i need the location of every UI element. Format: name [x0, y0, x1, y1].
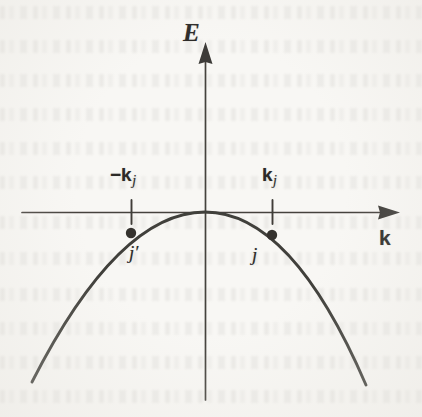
tick-label-negative-kj-main: −k	[110, 164, 132, 185]
point-label-j-prime: j′	[129, 243, 138, 262]
y-axis-label: E	[183, 20, 200, 45]
y-axis-arrowhead	[199, 42, 213, 64]
point-j	[267, 230, 277, 240]
tick-label-negative-kj: −kj	[110, 165, 136, 188]
x-axis-label: k	[379, 227, 391, 248]
point-label-j: j	[252, 245, 257, 264]
parabola-curve	[32, 212, 366, 385]
x-axis-arrowhead	[378, 206, 400, 220]
figure-canvas: E k −kj kj j′ j	[0, 0, 422, 417]
tick-label-positive-kj-main: k	[262, 164, 273, 185]
tick-label-positive-kj-subscript: j	[273, 173, 277, 188]
point-j-prime	[126, 228, 136, 238]
tick-label-negative-kj-subscript: j	[132, 173, 136, 188]
tick-label-positive-kj: kj	[262, 165, 277, 188]
plot-svg	[0, 0, 422, 417]
